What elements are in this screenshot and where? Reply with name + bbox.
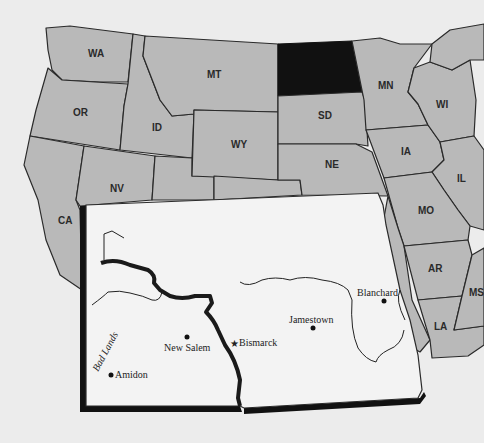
label-id: ID [152, 122, 162, 133]
label-wy: WY [231, 139, 247, 150]
label-ne: NE [325, 159, 339, 170]
blanchard-label[interactable]: Blanchard [357, 287, 398, 298]
label-nv: NV [110, 183, 124, 194]
label-ca: CA [58, 215, 72, 226]
state-nv[interactable] [76, 146, 155, 206]
jamestown-label[interactable]: Jamestown [289, 314, 333, 325]
label-wi: WI [436, 99, 448, 110]
new-salem-label[interactable]: New Salem [164, 342, 211, 353]
state-ca[interactable] [24, 136, 84, 290]
label-or: OR [73, 107, 89, 118]
amidon-dot [109, 373, 114, 378]
new-salem-dot [185, 335, 190, 340]
label-ms: MS [469, 287, 484, 298]
amidon-label[interactable]: Amidon [115, 369, 148, 380]
label-mo: MO [418, 205, 434, 216]
jamestown-dot [311, 326, 316, 331]
bismarck-label[interactable]: Bismarck [239, 337, 277, 348]
label-la: LA [434, 321, 447, 332]
label-ia: IA [401, 146, 411, 157]
label-il: IL [457, 173, 466, 184]
label-ar: AR [428, 263, 443, 274]
nd-inset: Amidon New Salem ★ Bismarck Jamestown Bl… [80, 193, 426, 414]
blanchard-dot [382, 299, 387, 304]
label-mt: MT [207, 69, 221, 80]
label-wa: WA [88, 48, 104, 59]
state-mi[interactable] [430, 24, 484, 70]
state-nd[interactable] [278, 41, 362, 96]
us-map: WA OR CA ID NV MT WY SD NE MN IA WI IL M… [0, 0, 484, 443]
capital-star-icon: ★ [230, 338, 239, 349]
label-mn: MN [378, 80, 394, 91]
label-sd: SD [318, 110, 332, 121]
